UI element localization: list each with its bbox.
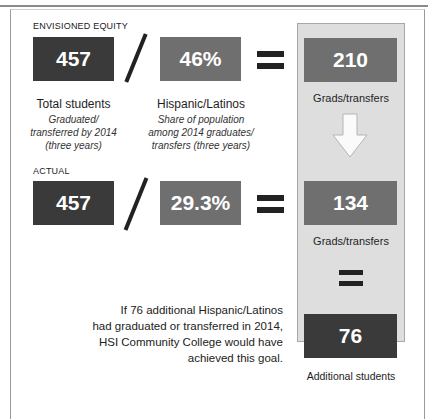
gap-note: If 76 additional Hispanic/Latinos had gr… [43, 302, 283, 366]
envisioned-share-caption: Hispanic/Latinos [145, 97, 257, 111]
actual-label: ACTUAL [33, 166, 70, 176]
sub-line: among 2014 graduates/ [145, 126, 257, 139]
actual-total-box: 457 [33, 181, 114, 225]
envisioned-share-box: 46% [160, 37, 241, 81]
sub-line: (three years) [23, 139, 124, 152]
top-rule [0, 5, 428, 7]
down-arrow-icon [332, 113, 368, 159]
gap-caption: Additional students [297, 370, 405, 382]
actual-share-box: 29.3% [160, 181, 241, 225]
equals-icon [257, 51, 284, 75]
note-line: If 76 additional Hispanic/Latinos [43, 302, 283, 318]
equals-icon [257, 195, 284, 219]
sub-line: Graduated/ [23, 113, 124, 126]
envisioned-result-caption: Grads/transfers [297, 92, 405, 104]
envisioned-share-sub: Share of population among 2014 graduates… [145, 113, 257, 152]
sub-line: Share of population [145, 113, 257, 126]
envisioned-total-caption: Total students [23, 97, 124, 111]
envisioned-total-sub: Graduated/ transferred by 2014 (three ye… [23, 113, 124, 152]
note-line: HSI Community College would have [43, 334, 283, 350]
envisioned-label: ENVISIONED EQUITY [33, 21, 128, 31]
note-line: achieved this goal. [43, 350, 283, 366]
actual-result-box: 134 [304, 181, 397, 225]
equals-icon [339, 270, 363, 292]
note-line: had graduated or transferred in 2014, [43, 318, 283, 334]
gap-box: 76 [304, 314, 397, 358]
sub-line: transfers (three years) [145, 139, 257, 152]
actual-result-caption: Grads/transfers [297, 235, 405, 247]
envisioned-total-box: 457 [33, 37, 114, 81]
envisioned-result-box: 210 [304, 38, 397, 82]
sub-line: transferred by 2014 [23, 126, 124, 139]
